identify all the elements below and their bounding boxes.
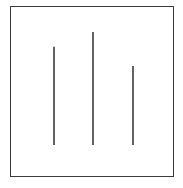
lines-canvas xyxy=(0,0,183,188)
